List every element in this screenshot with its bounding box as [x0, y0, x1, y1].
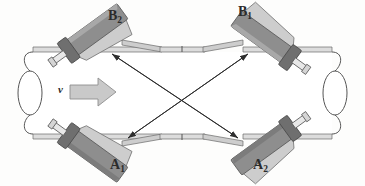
- label-transducer-a2: A2: [253, 158, 268, 175]
- label-transducer-b1: B1: [238, 5, 252, 22]
- pipe-right-bore-ellipse: [323, 71, 347, 115]
- flowmeter-diagram: B2 B1 A1 A2 v: [0, 0, 365, 186]
- label-flow-velocity: v: [58, 84, 63, 95]
- label-transducer-a1: A1: [110, 158, 125, 175]
- diagram-canvas: [0, 0, 365, 186]
- pipe-left-bore-ellipse: [18, 71, 42, 115]
- label-transducer-b2: B2: [108, 9, 122, 26]
